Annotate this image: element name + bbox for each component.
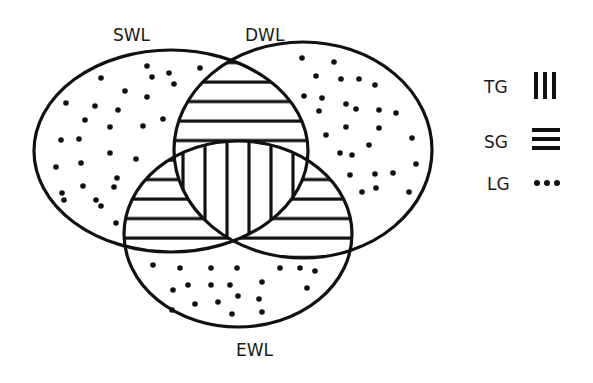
dot-marker	[390, 170, 396, 176]
dot-marker	[177, 265, 183, 271]
dot-marker	[343, 101, 349, 107]
dot-marker	[107, 124, 113, 130]
set-label-dwl: DWL	[245, 25, 285, 45]
dot-marker	[215, 299, 221, 305]
dot-marker	[93, 197, 99, 203]
dot-marker	[76, 136, 82, 142]
dot-marker	[277, 265, 283, 271]
dot-marker	[166, 70, 172, 76]
legend-item-tg: TG	[483, 72, 556, 99]
dot-marker	[208, 282, 214, 288]
dot-marker	[338, 76, 344, 82]
dot-marker	[160, 116, 166, 122]
dot-marker	[170, 287, 176, 293]
dot-marker	[356, 76, 362, 82]
dot-marker	[376, 107, 382, 113]
vertical-lines-icon	[534, 72, 556, 99]
dot-marker	[133, 156, 139, 162]
dot-marker	[413, 161, 419, 167]
dots-icon	[534, 180, 560, 186]
dot-marker	[185, 282, 191, 288]
dot-marker	[372, 82, 378, 88]
dot-marker	[208, 265, 214, 271]
dot-marker	[98, 203, 104, 209]
dot-marker	[78, 160, 84, 166]
dot-marker	[149, 74, 155, 80]
dot-marker	[393, 110, 399, 116]
dot-marker	[144, 63, 150, 69]
dot-marker	[373, 185, 379, 191]
dot-marker	[80, 183, 86, 189]
dot-marker	[406, 189, 412, 195]
dot-marker	[63, 100, 69, 106]
horizontal-lines-icon	[532, 128, 560, 150]
dot-marker	[111, 184, 117, 190]
dot-marker	[58, 137, 64, 143]
dot-marker	[313, 73, 319, 79]
dot-marker	[299, 55, 305, 61]
venn-diagram: SWL DWL EWL TG SG LG	[0, 0, 593, 383]
dot-marker	[372, 171, 378, 177]
dot-marker	[235, 293, 241, 299]
dot-marker	[114, 175, 120, 181]
dot-marker	[376, 125, 382, 131]
legend: TG SG LG	[483, 72, 560, 194]
dot-marker	[359, 189, 365, 195]
legend-item-lg: LG	[487, 174, 560, 194]
legend-item-sg: SG	[484, 128, 560, 152]
dot-marker	[304, 285, 310, 291]
legend-label-lg: LG	[487, 174, 510, 194]
dot-marker	[256, 296, 262, 302]
dot-marker	[140, 123, 146, 129]
dot-marker	[349, 152, 355, 158]
dot-marker	[115, 107, 121, 113]
dot-marker	[259, 279, 265, 285]
dot-marker	[234, 265, 240, 271]
dot-marker	[259, 309, 265, 315]
legend-label-tg: TG	[483, 77, 508, 97]
dot-marker	[82, 117, 88, 123]
dot-marker	[319, 95, 325, 101]
dot-marker	[171, 81, 177, 87]
dot-marker	[227, 282, 233, 288]
dot-marker	[347, 172, 353, 178]
dot-marker	[337, 150, 343, 156]
dot-marker	[61, 197, 67, 203]
set-label-swl: SWL	[113, 25, 151, 45]
dot-marker	[316, 108, 322, 114]
dot-marker	[366, 142, 372, 148]
dot-marker	[301, 93, 307, 99]
dot-marker	[353, 106, 359, 112]
dot-marker	[331, 59, 337, 65]
dot-marker	[229, 311, 235, 317]
dot-marker	[144, 94, 150, 100]
dot-marker	[409, 135, 415, 141]
dot-marker	[92, 103, 98, 109]
dot-marker	[297, 265, 303, 271]
dot-marker	[343, 124, 349, 130]
dot-marker	[98, 75, 104, 81]
dot-marker	[53, 164, 59, 170]
dot-marker	[113, 220, 119, 226]
dot-marker	[59, 190, 65, 196]
dot-marker	[323, 132, 329, 138]
dot-marker	[312, 268, 318, 274]
dot-marker	[122, 88, 128, 94]
dot-marker	[107, 150, 113, 156]
legend-label-sg: SG	[484, 132, 508, 152]
dot-marker	[192, 301, 198, 307]
set-label-ewl: EWL	[236, 340, 274, 360]
dot-marker	[150, 262, 156, 268]
dot-marker	[197, 65, 203, 71]
